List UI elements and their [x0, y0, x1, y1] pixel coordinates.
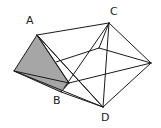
- edge-b2-e: [69, 63, 151, 83]
- edge-face-p: [56, 48, 99, 62]
- shaded-face: [14, 35, 69, 92]
- label-c: C: [110, 5, 118, 18]
- geometric-solid-diagram: A B C D: [0, 0, 161, 128]
- edge-e-d: [103, 63, 151, 107]
- label-a: A: [26, 14, 34, 27]
- label-d: D: [101, 111, 109, 124]
- label-b: B: [53, 94, 61, 107]
- edge-a-c: [37, 23, 109, 35]
